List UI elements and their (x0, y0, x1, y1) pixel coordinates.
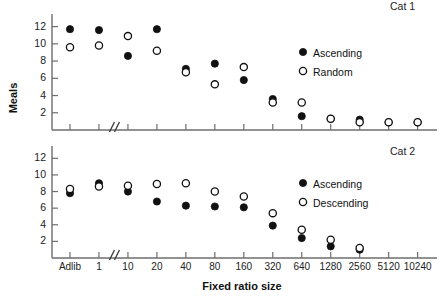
y-tick-label: 12 (24, 20, 46, 32)
data-point-descending (240, 193, 247, 200)
data-point-ascending (298, 113, 305, 120)
data-point-ascending (153, 198, 160, 205)
plot-canvas (0, 0, 443, 299)
data-point-random (211, 81, 218, 88)
data-point-random (298, 99, 305, 106)
y-tick-label: 4 (24, 218, 46, 230)
data-point-ascending (211, 203, 218, 210)
y-tick-label: 10 (24, 168, 46, 180)
y-tick-label: 2 (24, 234, 46, 246)
y-tick-label: 2 (24, 106, 46, 118)
y-tick-label: 8 (24, 185, 46, 197)
data-point-ascending (95, 26, 102, 33)
data-point-random (182, 69, 189, 76)
data-point-random (385, 119, 392, 126)
data-point-descending (298, 226, 305, 233)
data-point-random (414, 119, 421, 126)
data-point-descending (211, 188, 218, 195)
y-tick-label: 6 (24, 201, 46, 213)
data-point-descending (269, 210, 276, 217)
x-tick-label: 10240 (393, 261, 443, 272)
y-tick-label: 6 (24, 71, 46, 83)
y-tick-label: 4 (24, 89, 46, 101)
data-point-random (66, 44, 73, 51)
legend-marker (299, 179, 306, 186)
data-point-descending (95, 183, 102, 190)
y-tick-label: 8 (24, 54, 46, 66)
legend-marker (299, 67, 306, 74)
data-point-random (153, 47, 160, 54)
data-point-random (269, 99, 276, 106)
data-point-descending (356, 244, 363, 251)
data-point-ascending (153, 26, 160, 33)
y-tick-label: 10 (24, 37, 46, 49)
data-point-ascending (66, 26, 73, 33)
data-point-ascending (124, 52, 131, 59)
y-tick-label: 12 (24, 151, 46, 163)
data-point-ascending (269, 222, 276, 229)
data-point-ascending (240, 76, 247, 83)
data-point-ascending (211, 60, 218, 67)
data-point-random (95, 42, 102, 49)
data-point-descending (66, 185, 73, 192)
data-point-ascending (240, 204, 247, 211)
legend-marker (299, 48, 306, 55)
data-point-ascending (298, 234, 305, 241)
data-point-descending (124, 182, 131, 189)
legend-marker (299, 198, 306, 205)
data-point-descending (327, 236, 334, 243)
data-point-descending (153, 180, 160, 187)
data-point-random (356, 119, 363, 126)
scatter-figure: Meals Fixed ratio size Cat 1 Cat 2 Ascen… (0, 0, 443, 299)
data-point-random (240, 64, 247, 71)
data-point-descending (182, 180, 189, 187)
data-point-random (124, 32, 131, 39)
data-point-ascending (182, 202, 189, 209)
data-point-random (327, 115, 334, 122)
